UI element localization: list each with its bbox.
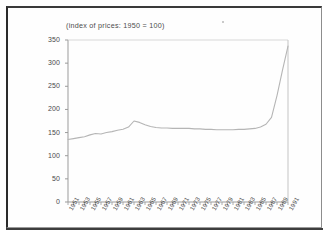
y-tick-label: 300 xyxy=(36,59,60,66)
y-tick-label: 200 xyxy=(36,105,60,112)
page-root: (index of prices: 1950 = 100) 0501001502… xyxy=(0,0,329,242)
y-tick-label: 350 xyxy=(36,36,60,43)
y-tick-label: 0 xyxy=(36,198,60,205)
chart-axes xyxy=(68,40,288,202)
y-tick-label: 150 xyxy=(36,129,60,136)
y-tick-label: 100 xyxy=(36,152,60,159)
y-tick-label: 50 xyxy=(36,175,60,182)
price-index-line xyxy=(68,46,288,139)
y-tick-label: 250 xyxy=(36,82,60,89)
